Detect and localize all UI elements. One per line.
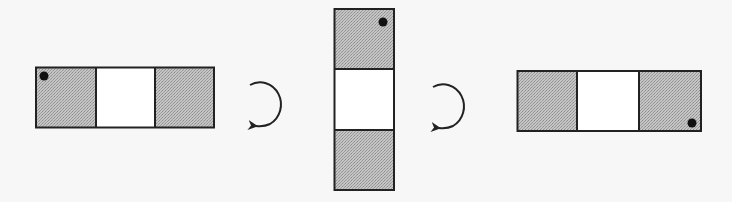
rotate-arrow-1: [250, 82, 281, 126]
strip-3-cell-2: [577, 71, 639, 131]
marker-dot: [40, 72, 49, 81]
strip-1: [36, 67, 214, 128]
strip-2-cell-3: [334, 130, 394, 190]
strip-1-cell-2: [96, 67, 155, 127]
clockwise-arrow-icon: [250, 82, 281, 126]
clockwise-arrow-icon: [433, 84, 464, 128]
rotation-diagram: [0, 0, 732, 202]
marker-dot: [688, 119, 697, 128]
strip-2-cell-2: [334, 69, 394, 130]
rotate-arrow-2: [433, 84, 464, 128]
strip-3: [517, 71, 701, 131]
strip-2: [334, 9, 394, 190]
strip-1-cell-3: [155, 68, 214, 128]
strip-3-cell-1: [517, 71, 577, 131]
marker-dot: [379, 18, 388, 27]
